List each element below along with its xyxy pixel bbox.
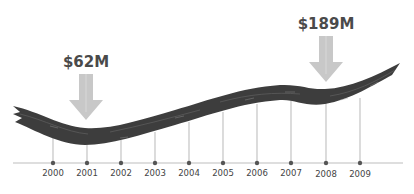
year-label: 2000: [42, 168, 64, 178]
year-label: 2004: [178, 168, 200, 178]
year-label: 2008: [315, 169, 337, 179]
year-label: 2005: [212, 168, 234, 178]
year-label: 2007: [280, 168, 302, 178]
year-label: 2001: [76, 168, 98, 178]
data-ribbon: [13, 63, 400, 145]
callout-2008: $189M: [298, 15, 355, 82]
year-label: 2002: [110, 168, 132, 178]
callout-2001: $62M: [63, 53, 109, 120]
year-label: 2009: [349, 169, 371, 179]
timeline-chart: $62M $189M 2000 2001 2002 2003 2004 2005…: [0, 0, 414, 194]
callout-label-62m: $62M: [63, 53, 109, 71]
year-label: 2003: [144, 168, 166, 178]
year-label: 2006: [246, 168, 268, 178]
callout-label-189m: $189M: [298, 15, 355, 33]
x-axis-labels: 2000 2001 2002 2003 2004 2005 2006 2007 …: [42, 168, 371, 179]
